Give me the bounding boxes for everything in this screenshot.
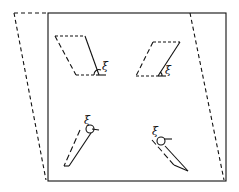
xi-label-bottom-right: ξ — [152, 125, 159, 138]
xi-label-top-right: ξ — [165, 64, 172, 77]
solid-frame — [48, 13, 226, 181]
shape-bottom-left — [64, 125, 99, 166]
shape-top-right — [136, 42, 180, 76]
shape-bottom-right — [152, 137, 188, 171]
xi-label-top-left: ξ — [102, 60, 109, 73]
xi-label-bottom-left: ξ — [84, 114, 91, 127]
diagram-canvas: ξ ξ ξ ξ — [0, 0, 239, 192]
shape-top-left — [55, 36, 106, 75]
sheared-frame — [14, 13, 224, 180]
